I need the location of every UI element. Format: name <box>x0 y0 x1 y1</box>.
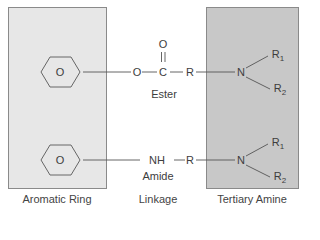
r-group: R <box>186 155 194 166</box>
r1-symbol: R <box>272 48 280 60</box>
amine-nitrogen: N <box>237 67 245 78</box>
substituent-r1: R1 <box>272 49 284 61</box>
carbonyl-oxygen: O <box>159 39 168 50</box>
ester-label: Ester <box>151 89 177 100</box>
substituent-r2: R2 <box>274 171 286 183</box>
ring-symbol: O <box>56 67 65 78</box>
carbonyl-carbon: C <box>159 67 167 78</box>
ring-symbol: O <box>56 155 65 166</box>
bond-line <box>246 165 270 177</box>
tertiary-amine-label: Tertiary Amine <box>217 193 287 205</box>
r1-subscript: 1 <box>280 142 284 151</box>
r2-symbol: R <box>274 170 282 182</box>
r2-symbol: R <box>274 82 282 94</box>
amide-nh: NH <box>149 155 165 166</box>
aromatic-ring-label: Aromatic Ring <box>22 193 91 205</box>
r-group: R <box>186 67 194 78</box>
bond-line <box>246 144 268 156</box>
r2-subscript: 2 <box>282 88 286 97</box>
amine-nitrogen: N <box>237 155 245 166</box>
ester-oxygen: O <box>133 67 142 78</box>
bond-line <box>246 56 268 68</box>
substituent-r2: R2 <box>274 83 286 95</box>
amide-label: Amide <box>142 171 173 182</box>
substituent-r1: R1 <box>272 137 284 149</box>
bond-line <box>246 77 270 89</box>
r1-subscript: 1 <box>280 54 284 63</box>
linkage-label: Linkage <box>139 193 178 205</box>
r2-subscript: 2 <box>282 176 286 185</box>
r1-symbol: R <box>272 136 280 148</box>
